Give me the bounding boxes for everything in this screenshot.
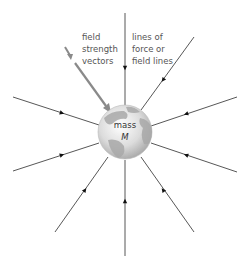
arrowhead-icon: [59, 154, 64, 158]
field-line-left-upper: [13, 97, 99, 125]
label-line: field: [82, 31, 118, 43]
field-lines-label: lines of force or field lines: [132, 31, 173, 67]
arrowhead-icon: [123, 66, 127, 71]
label-line: vectors: [82, 55, 118, 67]
arrowhead-icon: [59, 110, 64, 114]
gravitational-field-diagram: field strength vectors lines of force or…: [0, 0, 250, 265]
field-line-bottom: [123, 160, 127, 256]
field-line-left-lower: [13, 143, 99, 171]
field-strength-vectors-label: field strength vectors: [82, 31, 118, 67]
field-line-right-lower: [151, 143, 237, 172]
mass-label-text: mass: [110, 120, 140, 130]
mass-label: mass M: [110, 120, 140, 142]
label-line: lines of: [132, 31, 173, 43]
field-line-right-upper: [151, 97, 237, 126]
field-line-bottom-right: [141, 157, 194, 232]
arrowhead-icon: [184, 111, 189, 115]
arrowhead-icon: [162, 77, 166, 82]
field-line-top: [123, 13, 127, 106]
label-line: force or: [132, 43, 173, 55]
label-line: field lines: [132, 55, 173, 67]
arrowhead-icon: [123, 199, 127, 204]
field-line-bottom-left: [55, 157, 108, 232]
mass-symbol: M: [110, 132, 140, 142]
arrowhead-icon: [184, 154, 189, 158]
label-line: strength: [82, 43, 118, 55]
